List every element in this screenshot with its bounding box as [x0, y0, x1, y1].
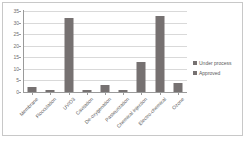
chart-legend: Under processApproved [193, 59, 245, 79]
x-tick-mark [178, 93, 179, 95]
y-tick-mark [19, 92, 21, 93]
bar[interactable] [64, 18, 73, 92]
bar[interactable] [82, 90, 91, 92]
y-tick-mark [19, 23, 21, 24]
y-tick-mark [19, 57, 21, 58]
legend-swatch-icon [193, 61, 197, 65]
x-tick-mark [160, 93, 161, 95]
x-tick-mark [50, 93, 51, 95]
x-tick-label: Ozone [170, 96, 185, 111]
bar[interactable] [28, 87, 37, 92]
bar-slot [169, 10, 187, 92]
y-tick-mark [19, 69, 21, 70]
x-tick-mark [123, 93, 124, 95]
bar-slot [78, 10, 96, 92]
bar[interactable] [173, 83, 182, 92]
bar[interactable] [137, 62, 146, 92]
x-tick-label: UV/O3 [61, 96, 76, 111]
legend-item[interactable]: Under process [193, 59, 245, 66]
bar-slot [151, 10, 169, 92]
x-axis: MembraneFlocculationUV/O3CavitationDe-ox… [23, 93, 187, 139]
y-tick-mark [19, 34, 21, 35]
y-tick-mark [19, 11, 21, 12]
bar-slot [96, 10, 114, 92]
legend-item[interactable]: Approved [193, 69, 245, 76]
x-tick-mark [32, 93, 33, 95]
bar[interactable] [46, 90, 55, 92]
bar-slot [23, 10, 41, 92]
x-tick-mark [69, 93, 70, 95]
chart-frame: 05101520253035 MembraneFlocculationUV/O3… [2, 2, 243, 136]
legend-label: Approved [199, 70, 220, 76]
bar-slot [41, 10, 59, 92]
legend-label: Under process [199, 60, 232, 66]
x-tick-mark [87, 93, 88, 95]
bar-slot [59, 10, 77, 92]
y-tick-mark [19, 80, 21, 81]
legend-swatch-icon [193, 71, 197, 75]
bar-slot [114, 10, 132, 92]
bar[interactable] [119, 90, 128, 92]
bars-layer [23, 10, 187, 93]
x-tick-mark [105, 93, 106, 95]
plot-area [23, 10, 187, 93]
y-axis: 05101520253035 [3, 10, 21, 93]
bar[interactable] [100, 85, 109, 92]
x-tick-mark [141, 93, 142, 95]
bar[interactable] [155, 16, 164, 92]
y-tick-mark [19, 46, 21, 47]
bar-slot [132, 10, 150, 92]
